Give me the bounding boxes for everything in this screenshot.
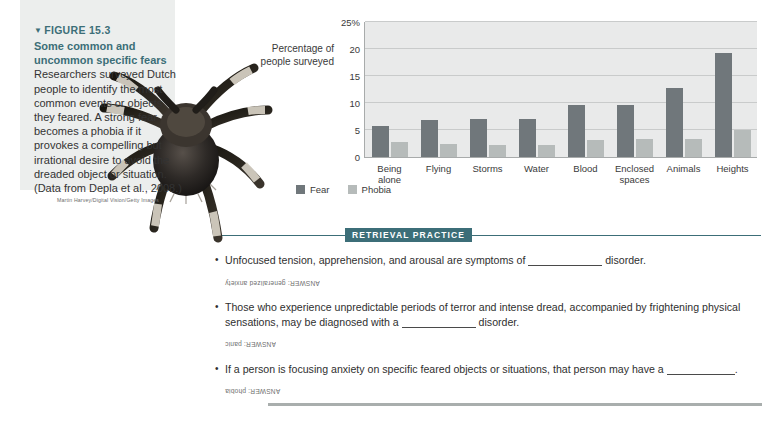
bar-phobia (538, 145, 555, 157)
legend-label: Phobia (362, 184, 392, 195)
y-axis-tick-label: 15 (349, 71, 360, 82)
figure-caption-title: Some common and uncommon specific fears (34, 40, 167, 66)
question-text-before-blank: If a person is focusing anxiety on speci… (225, 363, 667, 375)
y-axis-tick-label: 20 (349, 44, 360, 55)
y-axis-tick-label: 0 (355, 152, 360, 163)
x-axis-category-label: Enclosedspaces (615, 163, 654, 185)
bullet-icon: • (215, 300, 219, 315)
bar-fear (666, 88, 683, 157)
question-text-after-blank: disorder. (476, 316, 520, 328)
retrieval-practice-title: RETRIEVAL PRACTICE (345, 228, 472, 243)
x-axis-category-label: Animals (667, 163, 701, 174)
plot-area: 0510152025% BeingaloneFlyingStormsWaterB… (364, 22, 757, 158)
retrieval-practice-item: •Unfocused tension, apprehension, and ar… (213, 253, 761, 289)
question-text-before-blank: Unfocused tension, apprehension, and aro… (225, 254, 528, 266)
y-axis-tick-label: 10 (349, 98, 360, 109)
bar-fear (421, 120, 438, 157)
bar-chart: Percentage of people surveyed 0510152025… (256, 8, 764, 218)
bar-fear (372, 126, 389, 157)
legend-item-fear: Fear (296, 184, 330, 195)
answer-blank[interactable] (667, 374, 735, 375)
retrieval-practice-items: •Unfocused tension, apprehension, and ar… (213, 253, 761, 398)
figure-caption-text: Some common and uncommon specific fears … (34, 39, 182, 195)
retrieval-practice-item: •Those who experience unpredictable peri… (213, 300, 761, 351)
x-axis-category-label: Blood (573, 163, 597, 174)
y-axis-tick-label: 5 (355, 125, 360, 136)
bullet-icon: • (215, 253, 219, 268)
bar-phobia (734, 130, 751, 157)
rule-left (213, 235, 345, 236)
figure-number-heading: ▼FIGURE 15.3 (34, 24, 182, 36)
bar-fear (470, 119, 487, 157)
retrieval-practice-section: RETRIEVAL PRACTICE •Unfocused tension, a… (213, 228, 761, 398)
bar-group: Flying (414, 22, 463, 157)
bar-group: Enclosedspaces (610, 22, 659, 157)
bar-group: Water (512, 22, 561, 157)
legend-swatch (296, 185, 305, 194)
bar-phobia (636, 139, 653, 157)
bar-groups: BeingaloneFlyingStormsWaterBloodEnclosed… (365, 22, 757, 157)
x-axis-category-label: Flying (426, 163, 451, 174)
x-axis-category-label: Storms (472, 163, 502, 174)
inverted-answer-text: ANSWER: phobia (225, 383, 759, 398)
y-axis-tick-label: 25% (341, 17, 360, 28)
x-axis-category-label: Water (524, 163, 549, 174)
inverted-answer-text: ANSWER: panic (225, 336, 759, 351)
chart-legend: FearPhobia (296, 184, 391, 195)
legend-label: Fear (310, 184, 330, 195)
answer-blank[interactable] (402, 327, 476, 328)
bar-group: Storms (463, 22, 512, 157)
figure-caption-body: Researchers surveyed Dutch people to ide… (34, 68, 182, 194)
photo-credit: Martin Harvey/Digital Vision/Getty Image… (57, 197, 159, 203)
answer-blank[interactable] (528, 265, 602, 266)
y-axis-title: Percentage of people surveyed (256, 42, 334, 68)
bar-group: Beingalone (365, 22, 414, 157)
bar-group: Blood (561, 22, 610, 157)
bar-fear (519, 119, 536, 157)
bar-fear (715, 53, 732, 157)
question-text-after-blank: . (735, 363, 738, 375)
figure-caption: ▼FIGURE 15.3 Some common and uncommon sp… (34, 24, 182, 195)
x-axis-category-label: Beingalone (377, 163, 401, 185)
bar-phobia (587, 140, 604, 157)
bar-fear (617, 105, 634, 157)
x-axis-category-label: Heights (716, 163, 748, 174)
bar-fear (568, 105, 585, 157)
bar-group: Animals (659, 22, 708, 157)
bar-phobia (391, 142, 408, 157)
bar-phobia (685, 139, 702, 157)
bottom-divider (268, 403, 762, 406)
triangle-down-icon: ▼ (34, 26, 42, 35)
plot-wrapper: 0510152025% BeingaloneFlyingStormsWaterB… (336, 8, 764, 218)
figure-number: FIGURE 15.3 (44, 24, 110, 36)
legend-swatch (348, 185, 357, 194)
bar-phobia (440, 144, 457, 158)
bullet-icon: • (215, 362, 219, 377)
legend-item-phobia: Phobia (348, 184, 392, 195)
retrieval-practice-header: RETRIEVAL PRACTICE (213, 228, 761, 242)
bar-phobia (489, 145, 506, 157)
question-text-after-blank: disorder. (602, 254, 646, 266)
retrieval-practice-item: •If a person is focusing anxiety on spec… (213, 362, 761, 398)
bar-group: Heights (708, 22, 757, 157)
inverted-answer-text: ANSWER: generalized anxiety (225, 275, 759, 290)
rule-right (472, 235, 761, 236)
